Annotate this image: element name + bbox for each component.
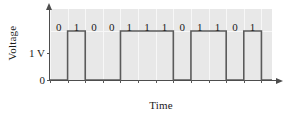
bit-label: 1 xyxy=(158,19,172,35)
waveform-figure: Voltage 1 V 0 010011101101 Time xyxy=(0,0,289,121)
bit-label: 1 xyxy=(193,19,207,35)
x-axis-tick-mark xyxy=(120,80,121,83)
bit-label: 1 xyxy=(122,19,136,35)
bit-label: 1 xyxy=(246,19,260,35)
bit-label-row: 010011101101 xyxy=(50,19,272,35)
bit-label: 1 xyxy=(69,19,83,35)
bit-label: 1 xyxy=(140,19,154,35)
x-axis-tick-mark xyxy=(191,80,192,83)
arrow-right-icon xyxy=(276,78,283,84)
x-axis-tick-mark xyxy=(173,80,174,83)
x-axis-tick-mark xyxy=(156,80,157,83)
x-axis-tick-mark xyxy=(50,80,51,83)
bit-label: 0 xyxy=(228,19,242,35)
x-axis-label: Time xyxy=(50,99,272,111)
x-axis-tick-mark xyxy=(68,80,69,83)
bit-label: 0 xyxy=(105,19,119,35)
x-axis-tick-mark xyxy=(244,80,245,83)
x-axis-tick-mark xyxy=(103,80,104,83)
x-axis-tick-mark xyxy=(226,80,227,83)
bit-label: 0 xyxy=(175,19,189,35)
bit-label: 0 xyxy=(52,19,66,35)
y-axis-tick-label-1v: 1 V xyxy=(15,47,45,59)
bit-label: 0 xyxy=(87,19,101,35)
y-axis-tick-label-0: 0 xyxy=(15,74,45,86)
x-axis-tick-mark xyxy=(138,80,139,83)
x-axis-tick-mark xyxy=(209,80,210,83)
bit-label: 1 xyxy=(210,19,224,35)
x-axis-line xyxy=(49,80,277,81)
x-axis-tick-mark xyxy=(261,80,262,83)
x-axis-tick-mark xyxy=(85,80,86,83)
y-axis-label: Voltage xyxy=(4,12,20,74)
